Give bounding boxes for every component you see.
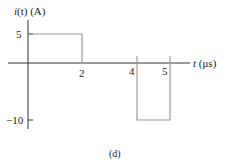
y-axis-label: i(t) (A) bbox=[14, 5, 46, 18]
y-tick-label-5: 5 bbox=[16, 28, 22, 40]
x-tick-label-5: 5 bbox=[162, 65, 168, 77]
y-tick-label-neg10: −10 bbox=[6, 114, 24, 126]
figure-caption: (d) bbox=[109, 148, 121, 160]
x-tick-label-2: 2 bbox=[79, 67, 85, 79]
current-waveform-chart: i(t) (A) 5 −10 2 4 5 t (μs) (d) bbox=[0, 0, 233, 165]
x-tick-label-4: 4 bbox=[129, 65, 135, 77]
waveform-line bbox=[28, 34, 170, 120]
x-axis-label: t (μs) bbox=[193, 57, 217, 70]
